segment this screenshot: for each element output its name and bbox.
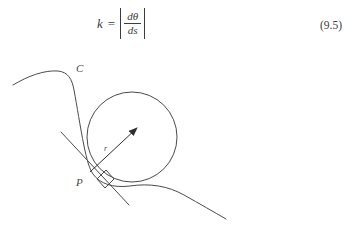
curve-label-c: C [76, 62, 84, 74]
osculating-circle [87, 92, 177, 182]
fraction-denominator: ds [127, 24, 139, 36]
curvature-diagram: C P r [0, 52, 352, 233]
equation-equals-sign: = [107, 16, 120, 32]
derivative-fraction: dθ ds [121, 11, 144, 36]
equation-lhs-k: k [97, 16, 107, 32]
radius-vector-arrow [90, 128, 137, 172]
equation-row: k = dθ ds (9.5) [0, 0, 352, 52]
radius-label-r: r [104, 144, 108, 153]
equation-expression: k = dθ ds [97, 8, 145, 39]
tangent-line [61, 132, 129, 205]
absolute-value-bar-right [144, 8, 145, 39]
point-label-p: P [75, 176, 83, 188]
figure-page: k = dθ ds (9.5) [0, 0, 352, 233]
equation-number: (9.5) [320, 19, 342, 31]
absolute-value-group: dθ ds [120, 8, 145, 39]
fraction-numerator: dθ [126, 11, 139, 23]
